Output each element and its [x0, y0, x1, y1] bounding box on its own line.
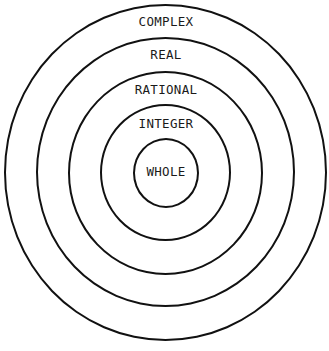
label-real: REAL	[150, 49, 181, 62]
label-rational: RATIONAL	[135, 84, 198, 97]
label-whole: WHOLE	[146, 166, 185, 179]
number-sets-diagram: COMPLEX REAL RATIONAL INTEGER WHOLE	[0, 0, 329, 351]
label-integer: INTEGER	[139, 118, 194, 131]
label-complex: COMPLEX	[139, 16, 194, 29]
